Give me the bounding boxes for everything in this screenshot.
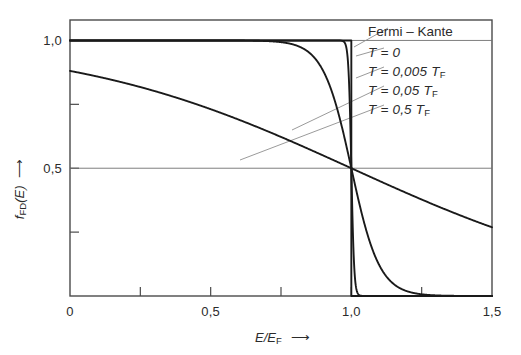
y-axis-ticks (70, 40, 79, 232)
y-axis-title-text: fFD(E) ⟶ (12, 159, 27, 219)
legend-entry-label: T = 0,5 T (368, 102, 424, 117)
x-axis-ticks (140, 287, 421, 296)
legend-entry-label: T = 0,005 T (368, 64, 440, 79)
legend-title: Fermi – Kante (368, 22, 498, 41)
fermi-dirac-figure: 00,51,01,5 0,51,0 fFD(E) ⟶ E/EF ⟶ Fermi … (0, 0, 521, 355)
legend-entry: T = 0,05 TF (368, 81, 498, 100)
x-tick-label: 1,0 (342, 304, 361, 319)
legend: Fermi – Kante T = 0T = 0,005 TFT = 0,05 … (368, 22, 498, 119)
y-axis-title-sub: FD (17, 203, 28, 216)
legend-entry-group: T = 0T = 0,005 TFT = 0,05 TFT = 0,5 TF (368, 43, 498, 119)
x-axis-title-sub: F (276, 335, 282, 346)
x-axis-title-text: E/E (255, 330, 276, 345)
y-axis-title: fFD(E) ⟶ (8, 178, 30, 200)
x-tick-label: 0,5 (201, 304, 220, 319)
y-tick-label: 0,5 (32, 161, 62, 176)
x-tick-label: 1,5 (483, 304, 502, 319)
legend-leader-lines (240, 28, 388, 160)
legend-entry-label: T = 0,05 T (368, 83, 432, 98)
legend-entry: T = 0,5 TF (368, 100, 498, 119)
legend-entry: T = 0,005 TF (368, 62, 498, 81)
x-axis-title: E/EF ⟶ (255, 330, 310, 345)
y-axis-title-f: f (12, 216, 27, 220)
y-axis-arrow: ⟶ (12, 159, 27, 182)
y-axis-title-paren: (E) (12, 185, 27, 202)
x-tick-label: 0 (66, 304, 73, 319)
legend-entry: T = 0 (368, 43, 498, 62)
legend-entry-subscript: F (440, 69, 446, 80)
leader-line-t05 (240, 105, 384, 160)
y-tick-label: 1,0 (32, 33, 62, 48)
x-axis-arrow: ⟶ (285, 330, 310, 345)
legend-entry-subscript: F (424, 107, 430, 118)
legend-entry-label: T = 0 (368, 45, 400, 60)
legend-entry-subscript: F (432, 88, 438, 99)
